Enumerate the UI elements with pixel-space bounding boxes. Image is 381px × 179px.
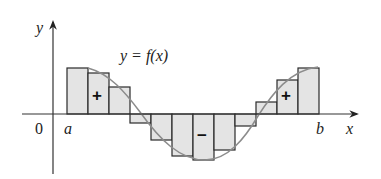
plus-sign-right: +	[281, 86, 291, 105]
curve-label: y = f(x)	[118, 47, 168, 65]
rectangle-5	[151, 114, 172, 140]
y-axis-label: y	[34, 19, 44, 37]
rectangle-1	[67, 68, 88, 114]
origin-label: 0	[35, 120, 43, 137]
x-axis-label: x	[345, 120, 353, 137]
rectangle-12	[298, 68, 319, 114]
plus-sign-left: +	[92, 86, 102, 105]
rectangle-3	[109, 87, 130, 114]
a-label: a	[64, 120, 72, 137]
rectangle-8	[214, 114, 235, 150]
minus-sign-middle: −	[197, 126, 207, 145]
b-label: b	[316, 120, 324, 137]
riemann-sum-figure: y x 0 a b y = f(x) + − +	[0, 0, 381, 179]
